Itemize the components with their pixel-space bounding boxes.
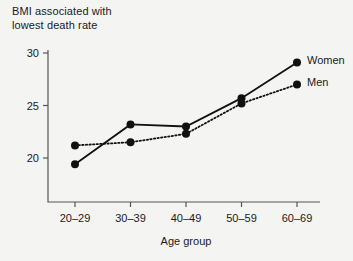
data-point-women-30–39 <box>127 120 135 128</box>
data-point-men-50–59 <box>238 99 246 107</box>
x-axis-title: Age group <box>161 235 212 247</box>
x-tick-label-0: 20–29 <box>60 212 91 224</box>
x-axis-ticks <box>75 202 297 207</box>
x-tick-label-1: 30–39 <box>115 212 146 224</box>
x-tick-label-2: 40–49 <box>171 212 202 224</box>
y-axis-ticks <box>43 53 48 158</box>
y-axis-tick-labels: 30 25 20 <box>27 47 39 164</box>
data-point-men-60–69 <box>293 81 301 89</box>
x-tick-label-3: 50–59 <box>226 212 257 224</box>
y-tick-label-30: 30 <box>27 47 39 59</box>
series-line-women <box>75 62 297 164</box>
x-axis-tick-labels: 20–29 30–39 40–49 50–59 60–69 <box>60 212 313 224</box>
line-chart-plot: 30 25 20 20–29 30–39 40–49 50–59 60–69 A… <box>0 0 353 261</box>
series-markers-women <box>71 58 301 168</box>
y-tick-label-20: 20 <box>27 152 39 164</box>
data-point-women-20–29 <box>71 160 79 168</box>
x-tick-label-4: 60–69 <box>282 212 313 224</box>
legend-label-women: Women <box>307 54 345 66</box>
y-tick-label-25: 25 <box>27 100 39 112</box>
series-markers-men <box>71 81 301 150</box>
legend-label-men: Men <box>307 76 328 88</box>
data-point-women-40–49 <box>182 123 190 131</box>
data-point-women-60–69 <box>293 58 301 66</box>
data-point-men-30–39 <box>127 138 135 146</box>
data-point-men-20–29 <box>71 141 79 149</box>
chart-figure: BMI associated with lowest death rate 30… <box>0 0 353 261</box>
data-point-men-40–49 <box>182 130 190 138</box>
